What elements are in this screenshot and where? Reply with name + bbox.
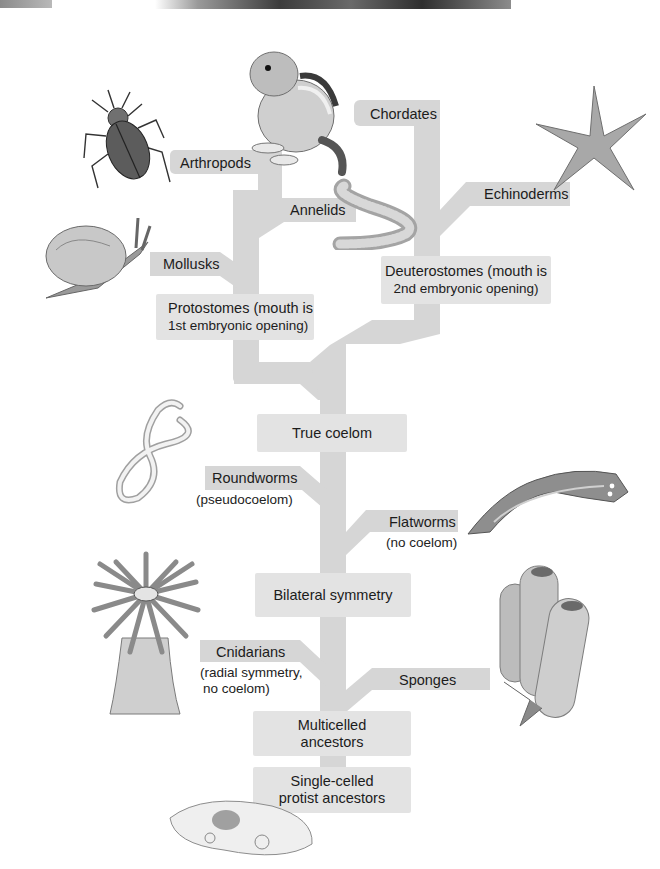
note-roundworms: (pseudocoelom) bbox=[196, 492, 293, 508]
node-true-coelom: True coelom bbox=[257, 414, 407, 452]
label-roundworms: Roundworms bbox=[212, 470, 297, 487]
node-label-line1: Deuterostomes (mouth is bbox=[385, 263, 547, 280]
node-multicelled-ancestors: Multicelled ancestors bbox=[253, 711, 411, 756]
label-chordates: Chordates bbox=[370, 106, 437, 123]
chipmunk-illustration bbox=[238, 36, 358, 176]
snail-illustration bbox=[28, 206, 160, 306]
beetle-illustration bbox=[78, 88, 176, 192]
node-label: Bilateral symmetry bbox=[273, 587, 392, 604]
earthworm-illustration bbox=[330, 178, 440, 250]
label-mollusks: Mollusks bbox=[163, 256, 219, 273]
label-cnidarians: Cnidarians bbox=[216, 644, 285, 661]
paramecium-illustration bbox=[164, 788, 318, 862]
node-label-line2: 2nd embryonic opening) bbox=[394, 280, 539, 297]
node-label-line2: 1st embryonic opening) bbox=[168, 317, 308, 334]
node-label: True coelom bbox=[292, 425, 372, 442]
starfish-illustration bbox=[534, 82, 652, 196]
node-bilateral-symmetry: Bilateral symmetry bbox=[255, 573, 411, 617]
note-cnidarians-1: (radial symmetry, bbox=[200, 665, 303, 681]
note-cnidarians-2: no coelom) bbox=[203, 681, 270, 697]
node-deuterostomes: Deuterostomes (mouth is 2nd embryonic op… bbox=[381, 256, 551, 304]
flatworm-illustration bbox=[464, 462, 632, 538]
node-label-line1: Protostomes (mouth is bbox=[168, 300, 313, 317]
node-protostomes: Protostomes (mouth is 1st embryonic open… bbox=[156, 294, 314, 340]
node-label-line1: Multicelled bbox=[298, 717, 367, 734]
label-sponges: Sponges bbox=[399, 672, 456, 689]
sea-anemone-illustration bbox=[86, 548, 206, 718]
label-flatworms: Flatworms bbox=[389, 514, 456, 531]
note-flatworms: (no coelom) bbox=[386, 535, 457, 551]
roundworm-illustration bbox=[110, 396, 206, 508]
node-label-line2: ancestors bbox=[301, 734, 364, 751]
sponge-illustration bbox=[490, 560, 600, 728]
